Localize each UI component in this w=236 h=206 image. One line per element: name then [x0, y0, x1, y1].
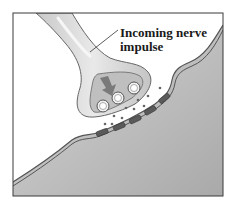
label-line-1: Incoming nerve	[120, 26, 207, 40]
incoming-nerve-impulse-label: Incoming nerve impulse	[120, 26, 207, 54]
synapse-diagram: Incoming nerve impulse	[0, 0, 236, 206]
label-line-2: impulse	[120, 40, 207, 54]
